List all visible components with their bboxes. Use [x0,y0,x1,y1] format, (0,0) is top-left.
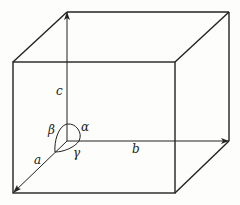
cell-drawing [0,0,240,205]
label-beta: β [48,124,55,136]
unit-cell-diagram: c b a α β γ [0,0,240,205]
angle-alpha-arc [67,124,80,141]
label-alpha: α [81,121,89,133]
label-b: b [132,143,140,155]
axis-a [13,141,67,193]
label-gamma: γ [73,147,80,159]
label-c: c [56,85,63,97]
label-a: a [34,154,41,166]
front-face [13,62,175,193]
angle-beta-arc [55,124,67,152]
